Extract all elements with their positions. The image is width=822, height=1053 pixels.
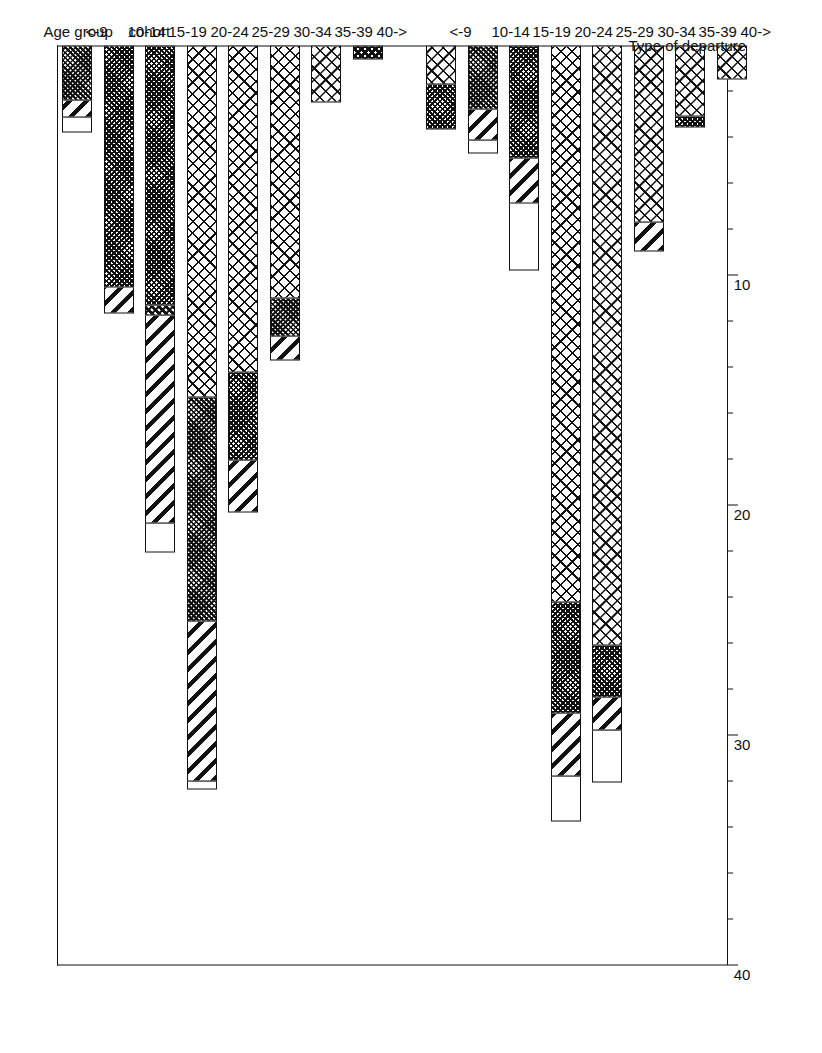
bar-segment-to_others xyxy=(187,620,217,781)
category-label-40->: 40-> xyxy=(376,23,406,40)
bar-1880-1920-40-> xyxy=(353,45,383,59)
bar-1880-1920-25-29 xyxy=(228,45,258,514)
axis-title-age-group: Age group xyxy=(44,23,113,40)
axis-tick-minor xyxy=(728,228,733,229)
bar-segment-to_kin xyxy=(145,304,175,316)
bar-segment-marriage xyxy=(311,45,341,103)
axis-tick-minor xyxy=(728,826,733,827)
bar-segment-to_others xyxy=(634,221,664,251)
axis-tick-minor xyxy=(728,642,733,643)
axis-tick-minor xyxy=(728,918,733,919)
bar-segment-to_others xyxy=(62,99,92,117)
bar-1849-1890-35-39 xyxy=(675,45,705,128)
bar-1849-1890-10-14 xyxy=(468,45,498,155)
bar-segment-unknown xyxy=(145,522,175,552)
category-label-<-9: <-9 xyxy=(450,23,472,40)
axis-tick-label: 40 xyxy=(734,965,751,982)
bar-1849-1890-25-29 xyxy=(592,45,622,786)
axis-tick-label: 20 xyxy=(734,505,751,522)
category-label-35-39: 35-39 xyxy=(335,23,373,40)
bar-segment-unknown xyxy=(468,139,498,153)
bar-segment-marriage xyxy=(270,45,300,298)
bar-segment-migration xyxy=(145,45,175,305)
axis-tick-minor xyxy=(728,182,733,183)
bar-segment-to_others xyxy=(551,712,581,776)
axis-tick-minor xyxy=(728,458,733,459)
legend-title: Type of departure xyxy=(629,37,747,54)
bar-segment-to_kin xyxy=(353,45,383,59)
category-label-30-34: 30-34 xyxy=(293,23,331,40)
bar-1880-1920-35-39 xyxy=(311,45,341,103)
bar-1849-1890-15-19 xyxy=(509,45,539,273)
bar-1880-1920-30-34 xyxy=(270,45,300,362)
axis-tick-minor xyxy=(728,596,733,597)
bar-segment-migration xyxy=(551,600,581,713)
category-label-20-24: 20-24 xyxy=(574,23,612,40)
value-axis: 010203040 xyxy=(727,45,728,965)
bar-1880-1920-15-19 xyxy=(145,45,175,556)
bar-segment-unknown xyxy=(592,729,622,782)
bar-segment-migration xyxy=(104,45,134,287)
category-label-10-14: 10-14 xyxy=(491,23,529,40)
bar-segment-marriage xyxy=(228,45,258,372)
category-label-15-19: 15-19 xyxy=(169,23,207,40)
bar-segment-marriage xyxy=(592,45,622,645)
axis-tick-minor xyxy=(728,320,733,321)
axis-tick-minor xyxy=(728,550,733,551)
bar-segment-to_others xyxy=(270,335,300,360)
bar-segment-to_others xyxy=(145,314,175,523)
bar-1849-1890-20-24 xyxy=(551,45,581,825)
bar-segment-migration xyxy=(426,83,456,129)
bar-segment-marriage xyxy=(551,45,581,602)
bar-segment-migration xyxy=(592,644,622,697)
axis-tick-minor xyxy=(728,136,733,137)
chart-rotation-wrapper: 010203040 <-910-1415-1920-2425-2930-3435… xyxy=(0,0,822,1053)
axis-tick-label: 30 xyxy=(734,735,751,752)
bar-segment-migration xyxy=(468,45,498,109)
bar-segment-to_others xyxy=(468,108,498,140)
bar-1880-1920-<-9 xyxy=(62,45,92,135)
axis-tick-minor xyxy=(728,366,733,367)
bar-1849-1890-30-34 xyxy=(634,45,664,252)
category-label-25-29: 25-29 xyxy=(252,23,290,40)
axis-title-cohort: cohort xyxy=(129,23,171,40)
bar-segment-marriage xyxy=(634,45,664,222)
bar-segment-to_others xyxy=(509,157,539,203)
bar-segment-marriage xyxy=(426,45,456,84)
bar-segment-migration xyxy=(62,45,92,100)
bar-1849-1890-<-9 xyxy=(426,45,456,130)
bar-segment-to_others xyxy=(104,285,134,313)
bar-segment-unknown xyxy=(551,775,581,821)
bar-segment-migration xyxy=(228,370,258,460)
bar-segment-to_others xyxy=(228,459,258,512)
axis-tick-minor xyxy=(728,780,733,781)
bar-segment-migration xyxy=(675,115,705,127)
axis-tick-minor xyxy=(728,872,733,873)
axis-tick-minor xyxy=(728,412,733,413)
bar-segment-marriage xyxy=(675,45,705,116)
bar-segment-migration xyxy=(187,396,217,621)
bar-segment-migration xyxy=(270,297,300,336)
bar-segment-unknown xyxy=(509,201,539,270)
bar-segment-unknown xyxy=(62,116,92,132)
bar-segment-marriage xyxy=(187,45,217,397)
bar-1880-1920-10-14 xyxy=(104,45,134,314)
chart-canvas: 010203040 <-910-1415-1920-2425-2930-3435… xyxy=(0,0,822,1053)
bar-segment-migration xyxy=(509,45,539,158)
axis-tick-minor xyxy=(728,688,733,689)
bar-1880-1920-20-24 xyxy=(187,45,217,793)
axis-tick-minor xyxy=(728,90,733,91)
category-label-15-19: 15-19 xyxy=(533,23,571,40)
bar-segment-to_others xyxy=(592,696,622,731)
axis-tick-label: 10 xyxy=(734,275,751,292)
category-label-20-24: 20-24 xyxy=(210,23,248,40)
